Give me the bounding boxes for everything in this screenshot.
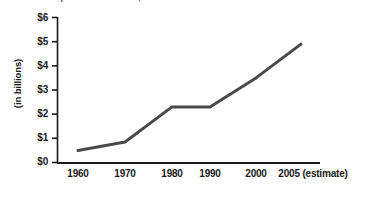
x-tick-label-1970: 1970 xyxy=(103,168,147,179)
x-tick-label-1990: 1990 xyxy=(188,168,232,179)
data-line-series-amount xyxy=(78,44,301,150)
x-tick-label-1960: 1960 xyxy=(56,168,100,179)
y-axis-ticks xyxy=(52,18,58,163)
x-tick-label-2005-estimate: 2005 (estimate) xyxy=(263,168,363,179)
line-chart: $6 $5 $4 $3 $2 $1 $0 (in billions) 1960 … xyxy=(0,0,374,198)
